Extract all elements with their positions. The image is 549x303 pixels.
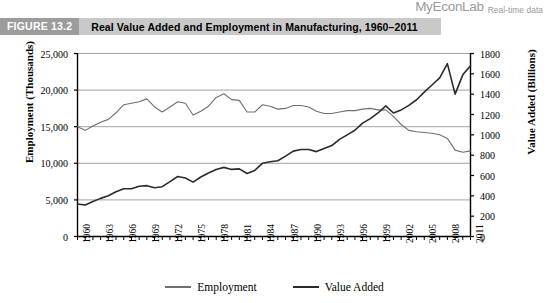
legend-item-value-added: Value Added — [293, 281, 384, 293]
chart-legend: Employment Value Added — [0, 281, 549, 293]
plot-svg — [0, 0, 549, 303]
legend-item-employment: Employment — [165, 281, 256, 293]
legend-swatch-value-added-icon — [293, 286, 319, 289]
chart-area: Employment (Thousands) Value Added (Bill… — [0, 0, 549, 303]
legend-label-employment: Employment — [197, 281, 256, 293]
legend-label-value-added: Value Added — [325, 281, 384, 293]
legend-swatch-employment-icon — [165, 286, 191, 287]
figure-root: MyEconLab Real-time data FIGURE 13.2 Rea… — [0, 0, 549, 303]
